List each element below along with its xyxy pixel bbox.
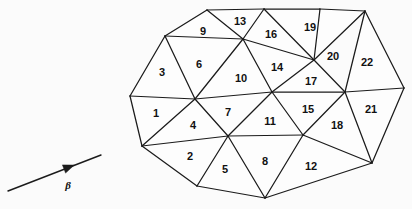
face-label-12: 12 (305, 160, 317, 172)
flow-direction-indicator: β (8, 155, 101, 191)
mesh-face-22 (345, 11, 404, 92)
face-label-18: 18 (331, 119, 343, 131)
face-label-13: 13 (234, 15, 246, 27)
face-label-17: 17 (305, 75, 317, 87)
face-label-14: 14 (271, 61, 284, 73)
face-label-8: 8 (262, 155, 268, 167)
face-label-16: 16 (265, 28, 277, 40)
face-label-2: 2 (187, 150, 193, 162)
face-label-21: 21 (365, 103, 377, 115)
face-label-20: 20 (327, 50, 339, 62)
beta-label: β (64, 179, 71, 191)
face-label-4: 4 (190, 119, 197, 131)
face-label-15: 15 (302, 103, 314, 115)
flow-arrow-line (8, 155, 101, 191)
mesh-svg-canvas: 12345678910111213141516171819202122 β (0, 0, 412, 209)
face-label-19: 19 (304, 21, 316, 33)
face-label-9: 9 (200, 25, 206, 37)
face-label-11: 11 (264, 115, 276, 127)
face-label-7: 7 (225, 106, 231, 118)
face-label-10: 10 (235, 72, 247, 84)
face-label-3: 3 (159, 66, 165, 78)
flow-arrow-head-icon (62, 165, 74, 173)
mesh-figure: 12345678910111213141516171819202122 β (0, 0, 412, 209)
face-label-22: 22 (361, 56, 373, 68)
face-label-5: 5 (222, 163, 228, 175)
face-label-6: 6 (196, 58, 202, 70)
face-label-1: 1 (153, 107, 159, 119)
